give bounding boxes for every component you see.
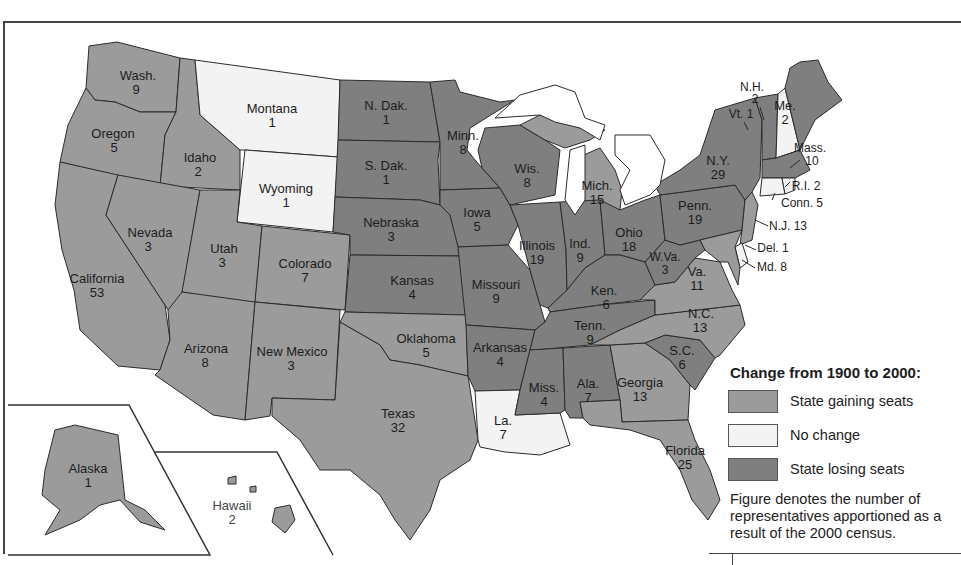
legend-item-losing: State losing seats: [728, 457, 961, 481]
svg-text:Conn. 5: Conn. 5: [781, 196, 823, 210]
legend-label-no-change: No change: [790, 427, 860, 443]
svg-text:Vt. 1: Vt. 1: [729, 107, 754, 121]
legend: Change from 1900 to 2000: State gaining …: [728, 364, 961, 542]
legend-item-no-change: No change: [728, 423, 961, 447]
legend-item-gaining: State gaining seats: [728, 389, 961, 413]
lake-huron-erie: [615, 135, 665, 205]
legend-label-gaining: State gaining seats: [790, 393, 913, 409]
bottom-tick: [732, 553, 733, 565]
svg-text:Md. 8: Md. 8: [757, 260, 787, 274]
no-change-swatch: [728, 424, 778, 447]
svg-text:R.I. 2: R.I. 2: [792, 179, 821, 193]
legend-label-losing: State losing seats: [790, 461, 904, 477]
bottom-rule: [709, 553, 961, 554]
legend-title: Change from 1900 to 2000:: [730, 364, 961, 381]
state-alaska[interactable]: [42, 425, 165, 535]
svg-text:Va.11: Va.11: [688, 264, 707, 293]
state-connecticut[interactable]: [760, 178, 785, 196]
svg-text:Hawaii2: Hawaii2: [212, 498, 251, 527]
legend-note: Figure denotes the number of representat…: [728, 491, 961, 542]
svg-text:N.J. 13: N.J. 13: [769, 219, 807, 233]
losing-swatch: [728, 458, 778, 481]
svg-text:Del. 1: Del. 1: [757, 241, 789, 255]
gaining-swatch: [728, 390, 778, 413]
